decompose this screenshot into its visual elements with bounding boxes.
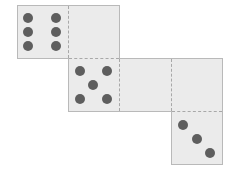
pip [23, 27, 33, 37]
pip [102, 94, 112, 104]
outline-edge [17, 5, 18, 59]
outline-edge [222, 58, 223, 165]
face-five [68, 58, 120, 112]
pip [51, 27, 61, 37]
outline-edge [68, 111, 172, 112]
pip [75, 94, 85, 104]
pip [23, 41, 33, 51]
fold-line [119, 59, 120, 111]
outline-edge [171, 111, 172, 165]
pip [178, 120, 188, 130]
fold-line [171, 59, 172, 111]
outline-edge [17, 58, 69, 59]
fold-line [68, 6, 69, 58]
face-six [17, 5, 69, 59]
fold-line [172, 111, 222, 112]
outline-edge [68, 58, 69, 112]
face-blank [171, 58, 223, 112]
face-three [171, 111, 223, 165]
pip [51, 41, 61, 51]
outline-edge [171, 164, 223, 165]
outline-edge [119, 5, 120, 59]
fold-line [69, 58, 119, 59]
face-blank [68, 5, 120, 59]
pip [205, 148, 215, 158]
cube-net-diagram [0, 0, 235, 170]
pip [51, 13, 61, 23]
pip [75, 66, 85, 76]
pip [102, 66, 112, 76]
pip [88, 80, 98, 90]
pip [23, 13, 33, 23]
pip [192, 134, 202, 144]
face-blank [119, 58, 172, 112]
